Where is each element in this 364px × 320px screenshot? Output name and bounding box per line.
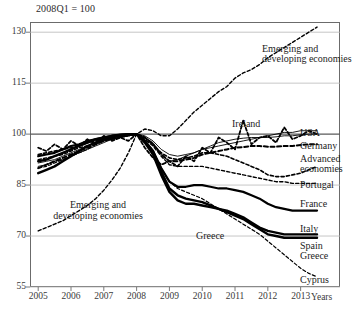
x-axis-tick-2012: 2012 [251, 291, 285, 301]
series-label-ireland-line1: Ireland [232, 119, 260, 129]
y-axis-tick-85: 85 [0, 179, 26, 189]
series-label-advanced: Advancedeconomies [300, 154, 343, 174]
series-label-emerging-line2: developing economies [262, 54, 352, 64]
annotation-emerging-line2: developing economies [33, 211, 163, 222]
chart-root: 2008Q1 = 100 130115100857055 20052006200… [0, 0, 364, 320]
y-axis-tick-115: 115 [0, 77, 26, 87]
series-label-italy: Italy [300, 224, 318, 234]
y-axis-tick-70: 70 [0, 230, 26, 240]
x-axis-tick-2006: 2006 [54, 291, 88, 301]
x-axis-title: Years [311, 292, 332, 302]
series-label-emerging: Emerging anddeveloping economies [262, 44, 352, 64]
series-label-portugal-line1: Portugal [300, 180, 334, 190]
x-axis-tick-2007: 2007 [87, 291, 121, 301]
series-label-ireland: Ireland [232, 119, 260, 129]
x-axis-tick-2009: 2009 [152, 291, 186, 301]
series-label-portugal: Portugal [300, 180, 334, 190]
series-label-greece: Greece [300, 251, 328, 261]
series-label-usa-line1: USA [300, 128, 320, 138]
annotation-emerging-developing-economies: Emerging anddeveloping economies [33, 200, 163, 221]
series-label-greece-line1: Greece [300, 251, 328, 261]
series-label-italy-line1: Italy [300, 224, 318, 234]
annotation-greece: Greece [196, 231, 224, 242]
x-axis-tick-2011: 2011 [218, 291, 252, 301]
y-axis-tick-100: 100 [0, 128, 26, 138]
series-label-cyprus-line1: Cyprus [300, 275, 329, 285]
series-label-germany: Germany [300, 141, 337, 151]
series-line-portugal [38, 134, 317, 176]
series-label-usa: USA [300, 128, 320, 138]
y-axis-tick-55: 55 [0, 281, 26, 291]
series-label-france-line1: France [300, 199, 327, 209]
series-label-france: France [300, 199, 327, 209]
y-axis-tick-130: 130 [0, 26, 26, 36]
x-axis-tick-2010: 2010 [185, 291, 219, 301]
annotation-emerging-line1: Emerging and [33, 200, 163, 211]
x-axis-tick-2005: 2005 [21, 291, 55, 301]
series-line-germany [38, 134, 317, 163]
series-label-germany-line1: Germany [300, 141, 337, 151]
series-label-cyprus: Cyprus [300, 275, 329, 285]
x-axis-tick-2008: 2008 [120, 291, 154, 301]
series-label-advanced-line2: economies [300, 164, 343, 174]
